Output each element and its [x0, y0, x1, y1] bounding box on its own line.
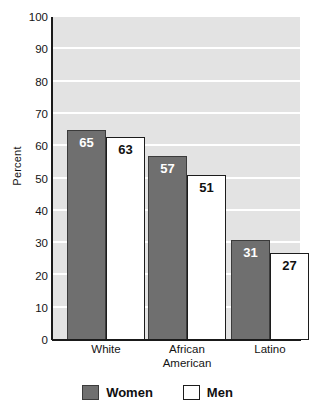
bar-latino-men[interactable]: 27: [270, 253, 309, 340]
y-tick-80: 80: [2, 77, 48, 88]
bar-white-women[interactable]: 65: [67, 130, 106, 340]
legend-swatch-women-icon: [82, 385, 99, 400]
y-axis-tick-labels: 100 90 80 70 60 50 40 30 20 10 0: [0, 0, 48, 409]
category-label-white-line1: White: [67, 343, 145, 357]
legend-swatch-men-icon: [183, 385, 200, 400]
y-tick-30: 30: [2, 238, 48, 249]
bar-value-latino-women: 31: [232, 245, 269, 260]
x-axis-category-labels: White African American Latino: [52, 343, 301, 383]
bar-value-african-american-women: 57: [149, 161, 186, 176]
legend-label-women: Women: [106, 385, 153, 400]
legend-item-men[interactable]: Men: [183, 385, 233, 400]
category-label-latino: Latino: [231, 343, 309, 357]
y-tick-20: 20: [2, 271, 48, 282]
bar-chart: Percent 100 90 80 70 60 50 40 30 20 10 0…: [0, 0, 315, 409]
y-tick-100: 100: [2, 12, 48, 23]
plot-area: 65 63 57 51 31 27: [52, 17, 300, 340]
bar-african-american-women[interactable]: 57: [148, 156, 187, 340]
category-label-african-american-line2: American: [148, 357, 226, 371]
category-label-african-american: African American: [148, 343, 226, 370]
gridline-80: [52, 80, 300, 82]
category-label-white: White: [67, 343, 145, 357]
bar-value-african-american-men: 51: [188, 180, 225, 195]
bar-value-white-men: 63: [107, 142, 144, 157]
category-label-latino-line1: Latino: [231, 343, 309, 357]
y-tick-60: 60: [2, 141, 48, 152]
y-tick-70: 70: [2, 109, 48, 120]
gridline-70: [52, 112, 300, 114]
bar-latino-women[interactable]: 31: [231, 240, 270, 340]
bar-value-white-women: 65: [68, 135, 105, 150]
category-label-african-american-line1: African: [148, 343, 226, 357]
x-axis-line: [52, 339, 301, 341]
y-tick-50: 50: [2, 174, 48, 185]
chart-legend: Women Men: [0, 385, 315, 400]
y-axis-line: [51, 17, 53, 340]
legend-label-men: Men: [207, 385, 233, 400]
y-tick-90: 90: [2, 44, 48, 55]
bar-white-men[interactable]: 63: [106, 137, 145, 341]
bar-african-american-men[interactable]: 51: [187, 175, 226, 340]
gridline-90: [52, 47, 300, 49]
y-tick-0: 0: [2, 335, 48, 346]
y-tick-10: 10: [2, 303, 48, 314]
y-tick-40: 40: [2, 206, 48, 217]
legend-item-women[interactable]: Women: [82, 385, 153, 400]
bar-value-latino-men: 27: [271, 258, 308, 273]
